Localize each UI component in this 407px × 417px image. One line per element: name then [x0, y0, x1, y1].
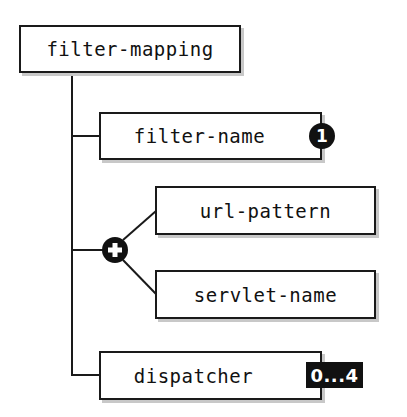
- cardinality-badge-one: 1: [309, 123, 335, 149]
- filter-mapping-diagram: filter-mapping filter-name 1 url-pattern…: [0, 0, 407, 417]
- node-label: servlet-name: [194, 284, 337, 306]
- node-label: filter-name: [134, 125, 265, 147]
- root-node-filter-mapping: filter-mapping: [19, 25, 241, 73]
- node-url-pattern: url-pattern: [155, 186, 376, 235]
- node-dispatcher: dispatcher: [99, 351, 322, 400]
- root-node-label: filter-mapping: [46, 38, 213, 60]
- node-label: url-pattern: [200, 200, 331, 222]
- cardinality-label: 1: [316, 126, 328, 146]
- cardinality-label: 0...4: [310, 365, 358, 386]
- cardinality-badge-zero-to-four: 0...4: [306, 362, 363, 388]
- choice-plus-icon: [102, 237, 128, 263]
- node-filter-name: filter-name: [99, 112, 322, 160]
- node-servlet-name: servlet-name: [155, 270, 376, 319]
- node-label: dispatcher: [134, 365, 253, 387]
